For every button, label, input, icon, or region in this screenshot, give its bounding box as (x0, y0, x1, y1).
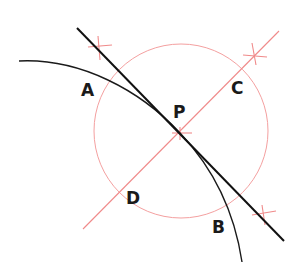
label-p: P (173, 102, 185, 122)
label-c: C (231, 78, 243, 98)
label-d: D (126, 188, 140, 208)
arc-mark-lower-right (252, 205, 276, 225)
arc-mark-upper-left (88, 36, 112, 60)
label-b: B (212, 217, 225, 237)
normal-line (83, 31, 279, 229)
label-a: A (81, 80, 95, 100)
construction-diagram: A P C D B (0, 0, 303, 272)
curve (19, 61, 242, 262)
tangent-line (77, 28, 284, 241)
